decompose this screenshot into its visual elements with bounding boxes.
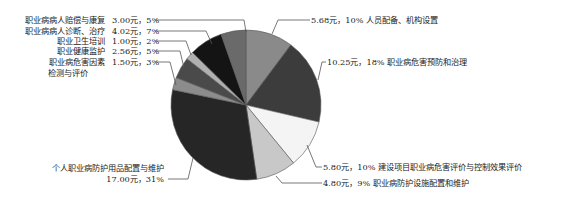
label-value: 2.56元，5%	[112, 46, 159, 56]
label-name-line2: 检测与评价	[48, 68, 88, 78]
label-text: 5.68元，10% 人员配备、机构设置	[311, 15, 438, 25]
label-value: 4.02元，7%	[112, 26, 159, 36]
bottom-left-label: 个人职业病防护用品配置与维护 17.00元，31%	[52, 163, 164, 184]
label-name: 职业病危害因素	[49, 57, 105, 67]
label-name: 职业健康监护	[57, 46, 105, 56]
label-value: 1.50元，3%	[112, 57, 159, 67]
label-name: 个人职业病防护用品配置与维护	[52, 163, 164, 173]
label-name: 职业病病人赔偿与康复	[25, 15, 105, 25]
label-value: 3.00元，5%	[112, 15, 159, 25]
pie-slices	[171, 30, 321, 180]
label-value: 17.00元，31%	[106, 174, 164, 184]
label-value: 1.00元，2%	[112, 36, 159, 46]
label-text: 5.80元，10% 建设项目职业病危害评价与控制效果评价	[323, 162, 522, 172]
label-name: 职业病病人诊断、治疗	[25, 26, 105, 36]
pie-chart: 职业病病人赔偿与康复 3.00元，5% 职业病病人诊断、治疗 4.02元，7% …	[0, 0, 561, 200]
label-text: 4.80元，9% 职业病防护设施配置和维护	[323, 178, 469, 188]
label-text: 10.25元，18% 职业病危害预防和治理	[327, 57, 467, 67]
label-name: 职业卫生培训	[57, 36, 105, 46]
left-labels: 职业病病人赔偿与康复 3.00元，5% 职业病病人诊断、治疗 4.02元，7% …	[25, 15, 159, 78]
right-labels: 5.68元，10% 人员配备、机构设置 10.25元，18% 职业病危害预防和治…	[311, 15, 522, 188]
